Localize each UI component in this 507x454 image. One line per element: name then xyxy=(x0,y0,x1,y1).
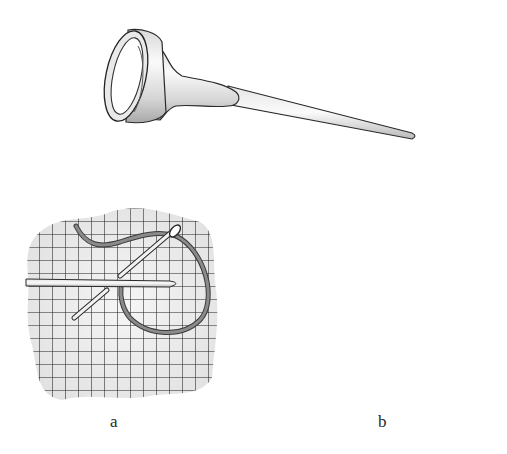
panel-a xyxy=(20,200,230,410)
panel-b-label: b xyxy=(378,412,387,432)
panel-a-label: a xyxy=(110,412,118,432)
needle-tool-illustration xyxy=(97,27,415,139)
illustration xyxy=(0,0,507,454)
